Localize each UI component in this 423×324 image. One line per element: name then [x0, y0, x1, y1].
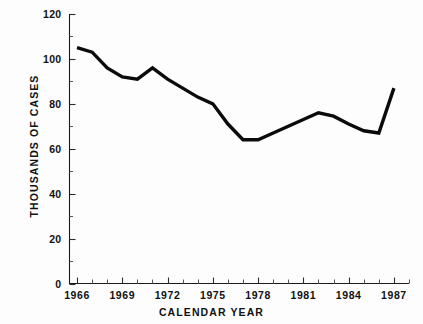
- data-line-cases: [77, 48, 394, 140]
- x-tick-label: 1966: [57, 290, 97, 301]
- y-tick-label: 120: [32, 9, 62, 19]
- x-tick-label: 1987: [374, 290, 414, 301]
- x-tick-marks: [78, 278, 410, 284]
- chart-figure: 020406080100120 196619691972197519781981…: [0, 0, 423, 324]
- x-tick-label: 1975: [193, 290, 233, 301]
- x-tick-label: 1972: [148, 290, 188, 301]
- y-axis-title: THOUSANDS OF CASES: [28, 31, 40, 261]
- plot-area: [0, 0, 423, 324]
- y-tick-marks: [70, 15, 76, 285]
- x-tick-label: 1981: [283, 290, 323, 301]
- y-tick-label: 0: [32, 279, 62, 289]
- x-tick-label: 1969: [102, 290, 142, 301]
- x-tick-label: 1978: [238, 290, 278, 301]
- x-tick-label: 1984: [329, 290, 369, 301]
- x-axis-title: CALENDAR YEAR: [0, 306, 423, 318]
- axes-group: [70, 14, 410, 284]
